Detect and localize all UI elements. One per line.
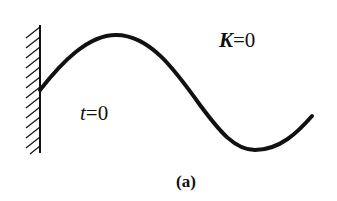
diagram-canvas	[0, 0, 337, 201]
wall-hatching	[26, 27, 40, 154]
t-value: =0	[86, 101, 108, 125]
wave-number-label: K=0	[219, 28, 255, 53]
k-value: =0	[233, 28, 255, 52]
wave-curve	[40, 35, 312, 150]
fixed-wall	[26, 25, 40, 154]
time-label: t=0	[80, 101, 108, 126]
k-symbol: K	[219, 28, 233, 52]
figure-caption: (a)	[176, 172, 196, 192]
